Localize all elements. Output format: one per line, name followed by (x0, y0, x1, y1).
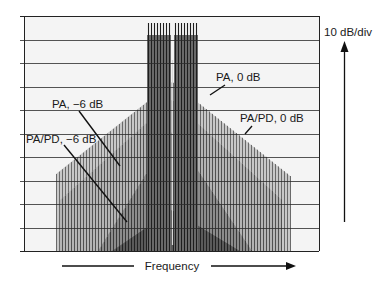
annotation-label-3: PA/PD, 0 dB (240, 112, 304, 124)
spectrum-chart: PA, −6 dBPA/PD, −6 dBPA, 0 dBPA/PD, 0 dB… (0, 0, 386, 283)
carrier-group-bg-0 (147, 35, 171, 251)
annotation-label-0: PA, −6 dB (52, 98, 104, 110)
x-axis-label: Frequency (145, 260, 200, 272)
annotation-label-2: PA, 0 dB (216, 71, 261, 83)
carrier-group-bg-1 (174, 35, 198, 251)
y-scale-label: 10 dB/div (324, 26, 372, 38)
annotation-label-1: PA/PD, −6 dB (26, 133, 97, 145)
